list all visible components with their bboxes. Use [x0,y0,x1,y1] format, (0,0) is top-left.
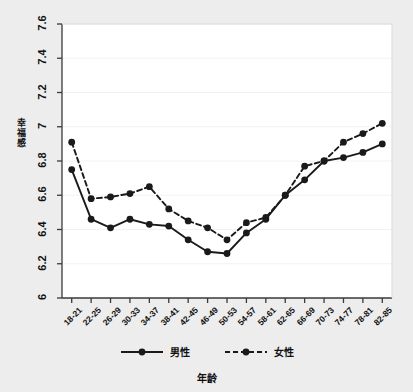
data-point[interactable] [146,221,153,228]
legend-swatch-dashed [224,346,268,358]
data-point[interactable] [379,120,386,127]
y-tick-label: 6.2 [36,250,48,276]
data-point[interactable] [88,195,95,202]
data-point[interactable] [321,158,328,165]
happiness-by-age-chart: 幸福感 66.26.46.66.877.27.47.6 18-2122-2526… [0,0,413,392]
data-point[interactable] [107,224,114,231]
y-tick-label: 6.8 [36,147,48,173]
legend-label-male: 男性 [170,344,190,359]
data-point[interactable] [185,236,192,243]
legend-label-female: 女性 [274,344,294,359]
y-tick-label: 7 [36,113,48,139]
data-point[interactable] [107,194,114,201]
x-axis-title: 年龄 [0,370,413,385]
data-point[interactable] [359,149,366,156]
data-point[interactable] [68,166,75,173]
legend-item-male[interactable]: 男性 [120,344,190,359]
data-point[interactable] [243,219,250,226]
data-point[interactable] [262,214,269,221]
data-point[interactable] [127,190,134,197]
data-point[interactable] [340,154,347,161]
data-point[interactable] [165,223,172,230]
chart-legend: 男性 女性 [0,344,413,359]
data-point[interactable] [224,250,231,257]
data-point[interactable] [301,176,308,183]
data-point[interactable] [127,216,134,223]
data-point[interactable] [301,163,308,170]
legend-item-female[interactable]: 女性 [224,344,294,359]
y-tick-label: 7.2 [36,79,48,105]
data-point[interactable] [379,140,386,147]
legend-swatch-solid [120,346,164,358]
data-point[interactable] [88,216,95,223]
y-tick-label: 7.4 [36,44,48,70]
y-tick-label: 6.6 [36,181,48,207]
y-tick-label: 6.4 [36,216,48,242]
y-tick-label: 6 [36,284,48,310]
y-axis-title: 幸福感 [14,118,28,148]
data-point[interactable] [204,248,211,255]
data-point[interactable] [359,130,366,137]
data-point[interactable] [146,183,153,190]
data-point[interactable] [243,230,250,237]
data-point[interactable] [68,139,75,146]
data-point[interactable] [165,206,172,213]
data-point[interactable] [282,192,289,199]
data-point[interactable] [340,139,347,146]
y-tick-label: 7.6 [36,10,48,36]
data-point[interactable] [185,218,192,225]
data-point[interactable] [224,236,231,243]
data-point[interactable] [204,224,211,231]
